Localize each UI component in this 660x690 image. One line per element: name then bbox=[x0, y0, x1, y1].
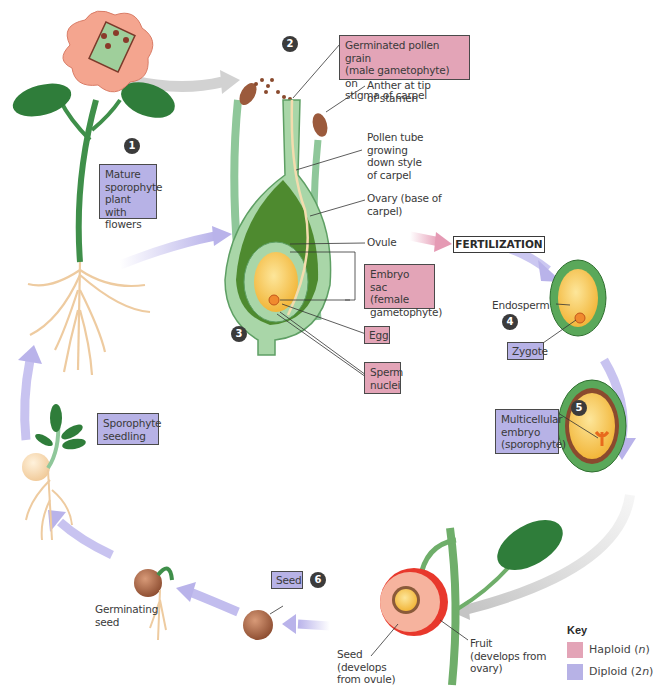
box-line: plant with bbox=[105, 193, 151, 218]
step-badge-2: 2 bbox=[282, 36, 298, 52]
pollen-grains bbox=[254, 78, 292, 101]
germinating-seed-label: Germinating seed bbox=[95, 603, 158, 628]
step-badge-1: 1 bbox=[124, 138, 140, 154]
label-line: Germinating bbox=[95, 603, 158, 616]
fruit-label: Fruit (develops from ovary) bbox=[470, 637, 546, 675]
fertilization-arrow bbox=[410, 232, 452, 252]
carpel bbox=[225, 100, 331, 355]
box-line: seedling bbox=[103, 430, 153, 443]
cycle-arrow-to-flower-detail bbox=[120, 226, 232, 265]
box-line: Embryo sac bbox=[370, 268, 429, 293]
box-line: (sporophyte) bbox=[501, 438, 553, 451]
anther-label: Anther at tip of stamen bbox=[367, 79, 431, 104]
cycle-arrow-to-seedling bbox=[48, 510, 112, 555]
key-var: n bbox=[639, 643, 646, 656]
pollen-tube-label: Pollen tube growing down style of carpel bbox=[367, 131, 423, 181]
box-line: nuclei bbox=[370, 379, 395, 392]
key-text: Diploid (2 bbox=[589, 665, 642, 678]
box-line: Mature bbox=[105, 168, 151, 181]
step-badge-6: 6 bbox=[310, 572, 326, 588]
cycle-arrow-to-seed bbox=[282, 614, 330, 634]
step-badge-4: 4 bbox=[502, 314, 518, 330]
haploid-key-label: Haploid (n) bbox=[589, 643, 650, 656]
key-text: ) bbox=[649, 665, 653, 678]
label-line: from ovule) bbox=[337, 673, 395, 686]
key-title: Key bbox=[567, 624, 587, 636]
label-line: ovary) bbox=[470, 662, 546, 675]
box-line: sporophyte bbox=[105, 181, 151, 194]
label-line: of stamen bbox=[367, 92, 431, 105]
label-line: down style bbox=[367, 156, 423, 169]
fertilization-label: FERTILIZATION bbox=[453, 236, 545, 253]
angiosperm-life-cycle-diagram: 1 2 3 4 5 6 Mature sporophyte plant with… bbox=[0, 0, 660, 690]
box-line: Sporophyte bbox=[103, 417, 153, 430]
box-line: Multicellular bbox=[501, 413, 553, 426]
embryo-seed bbox=[558, 380, 626, 472]
label-line: carpel) bbox=[367, 205, 442, 218]
key-text: Haploid ( bbox=[589, 643, 639, 656]
cycle-arrow-to-mature-plant bbox=[18, 345, 42, 440]
mature-sporophyte-box: Mature sporophyte plant with flowers bbox=[99, 164, 157, 219]
label-line: growing bbox=[367, 144, 423, 157]
label-line: seed bbox=[95, 616, 158, 629]
sperm-nuclei-box: Sperm nuclei bbox=[364, 362, 401, 394]
box-line: gametophyte) bbox=[370, 306, 429, 319]
box-line: (female bbox=[370, 293, 429, 306]
label-line: (develops from bbox=[470, 650, 546, 663]
diploid-swatch bbox=[567, 664, 583, 680]
fertilized-ovule bbox=[550, 260, 606, 336]
embryo-sac-box: Embryo sac (female gametophyte) bbox=[364, 264, 435, 309]
label-line: (develops bbox=[337, 661, 395, 674]
label-line: Fruit bbox=[470, 637, 546, 650]
cycle-arrow-to-germinating-seed bbox=[176, 582, 238, 612]
ovary-label: Ovary (base of carpel) bbox=[367, 192, 442, 217]
pollen-grain-box: Germinated pollen grain (male gametophyt… bbox=[339, 35, 470, 80]
label-line: Seed bbox=[337, 648, 395, 661]
key-text: ) bbox=[646, 643, 650, 656]
ovule-label: Ovule bbox=[367, 236, 397, 249]
zygote-box: Zygote bbox=[507, 342, 544, 360]
endosperm-label: Endosperm bbox=[492, 299, 550, 312]
label-line: of carpel bbox=[367, 169, 423, 182]
egg-box: Egg bbox=[364, 326, 390, 344]
diploid-key-label: Diploid (2n) bbox=[589, 665, 653, 678]
box-line: Sperm bbox=[370, 366, 395, 379]
seed-from-ovule-label: Seed (develops from ovule) bbox=[337, 648, 395, 686]
box-line: Germinated pollen grain bbox=[345, 39, 464, 64]
label-line: Anther at tip bbox=[367, 79, 431, 92]
step-badge-3: 3 bbox=[231, 326, 247, 342]
seed bbox=[243, 610, 273, 640]
sporophyte-seedling-box: Sporophyte seedling bbox=[97, 413, 159, 445]
label-line: Ovary (base of bbox=[367, 192, 442, 205]
box-line: flowers bbox=[105, 218, 151, 231]
box-line: embryo bbox=[501, 426, 553, 439]
label-line: Pollen tube bbox=[367, 131, 423, 144]
multicellular-embryo-box: Multicellular embryo (sporophyte) bbox=[495, 409, 559, 454]
step-badge-5: 5 bbox=[571, 400, 587, 416]
seed-box: Seed bbox=[271, 571, 303, 589]
haploid-swatch bbox=[567, 642, 583, 658]
